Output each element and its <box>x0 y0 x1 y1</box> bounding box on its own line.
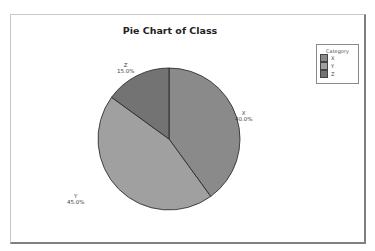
legend-swatch-icon <box>320 62 328 70</box>
legend-item-z: Z <box>320 70 358 78</box>
legend-label: Z <box>331 71 334 77</box>
legend: Category X Y Z <box>316 44 359 84</box>
legend-item-y: Y <box>320 62 358 70</box>
slice-pct: 40.0% <box>235 116 252 122</box>
slice-label-y: Y 45.0% <box>67 193 84 205</box>
legend-label: Y <box>331 63 334 69</box>
legend-label: X <box>331 55 334 61</box>
legend-swatch-icon <box>320 70 328 78</box>
slice-pct: 15.0% <box>117 68 134 74</box>
legend-item-x: X <box>320 54 358 62</box>
slice-pct: 45.0% <box>67 199 84 205</box>
legend-swatch-icon <box>320 54 328 62</box>
pie-chart <box>11 15 364 242</box>
slice-label-x: X 40.0% <box>235 110 252 122</box>
slice-label-z: Z 15.0% <box>117 62 134 74</box>
chart-frame: Pie Chart of Class X 40.0% Y 45.0% Z 15.… <box>10 14 366 244</box>
